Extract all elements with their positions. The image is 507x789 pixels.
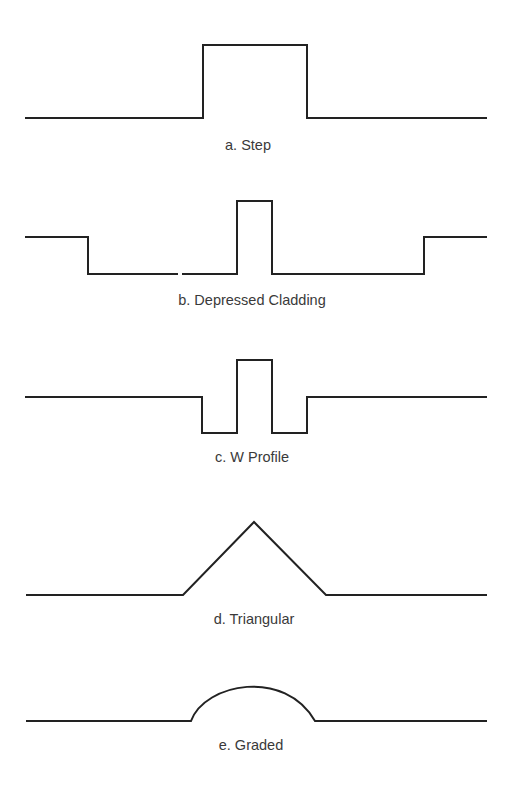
step-profile-curve [25, 45, 487, 118]
refractive-index-profiles-figure: a. Step b. Depressed Cladding c. W Profi… [0, 0, 507, 789]
w-profile-curve [25, 360, 487, 433]
step-profile-caption: a. Step [225, 137, 271, 153]
graded-profile-curve [26, 687, 487, 721]
profile-step: a. Step [25, 45, 487, 153]
profile-graded: e. Graded [26, 687, 487, 753]
profile-w: c. W Profile [25, 360, 487, 465]
profile-depressed-cladding: b. Depressed Cladding [25, 201, 487, 308]
depressed-cladding-profile-curve [25, 201, 487, 274]
graded-profile-caption: e. Graded [219, 737, 284, 753]
triangular-profile-caption: d. Triangular [214, 611, 295, 627]
depressed-cladding-profile-caption: b. Depressed Cladding [178, 292, 326, 308]
w-profile-caption: c. W Profile [215, 449, 289, 465]
triangular-profile-curve [26, 522, 487, 595]
profile-triangular: d. Triangular [26, 522, 487, 627]
